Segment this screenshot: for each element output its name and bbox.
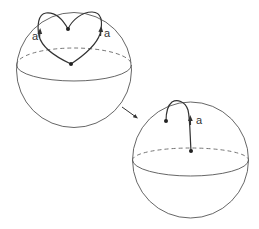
sphere-2: a [133,101,249,218]
point-lower [189,149,193,153]
point-top [66,27,70,31]
sphere-1: a a [17,12,132,128]
sphere-2-equator-front [133,160,249,176]
diagram-canvas: a a a [0,0,259,229]
heart-loop [38,12,101,64]
arrow-left-up-icon [40,31,41,38]
arc-path [166,101,191,151]
label-a: a [196,114,203,126]
sphere-1-equator-front [17,65,132,81]
point-left [164,119,168,123]
label-a-left: a [32,30,39,42]
arrow-right-up-icon [101,29,102,36]
transition-arrow-icon [122,107,136,117]
point-bottom [69,62,73,66]
label-a-right: a [104,27,111,39]
